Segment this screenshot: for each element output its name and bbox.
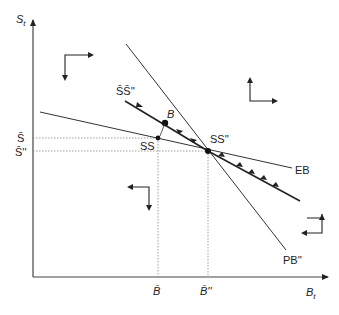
phase-arrow-bottom-right [301, 214, 325, 236]
tick-s-new: S̄'' [15, 146, 27, 158]
point-b-label: B [167, 108, 174, 120]
eb-label: EB [295, 164, 310, 176]
x-axis-label: Bt [306, 286, 316, 301]
tick-b-bar: B̄ [153, 285, 160, 297]
saddle-arrow-icon [136, 102, 143, 107]
phase-arrow-top-right [247, 77, 278, 104]
phase-arrow-bottom-left [127, 184, 152, 211]
point-ss-new [205, 148, 211, 154]
axes [33, 20, 328, 277]
guide-lines [33, 138, 208, 277]
phase-arrow-top-left [62, 52, 94, 81]
tick-b-new: B̄'' [200, 285, 212, 297]
y-axis-label: St [16, 13, 26, 28]
saddle-label: S̄S̄'' [116, 85, 135, 97]
point-ss-label: SS [140, 140, 155, 152]
point-ss [156, 136, 161, 141]
point-ss-new-label: SS'' [210, 133, 229, 145]
tick-s-bar: S̄ [17, 132, 24, 144]
pb-label: PB'' [283, 254, 302, 266]
phase-diagram: St Bt S̄ S̄'' B̄ B̄'' PB'' EB S̄S̄'' B [0, 0, 339, 315]
